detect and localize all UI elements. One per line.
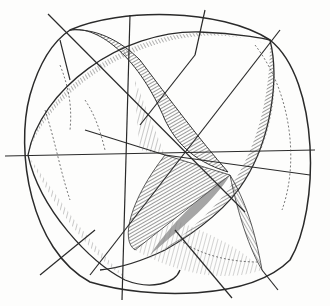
sphere-illustration (0, 0, 330, 306)
figure-canvas: Sphere divided by three great circles (e… (0, 0, 330, 306)
